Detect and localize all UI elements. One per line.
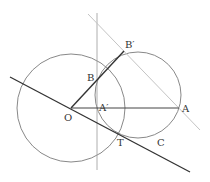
label-B: B (87, 72, 94, 83)
diagram-canvas: O A A′ B B′ T C (0, 0, 210, 182)
circle-C (95, 52, 181, 138)
label-A-prime: A′ (98, 102, 109, 113)
segment-OB-prime (71, 51, 124, 108)
label-T: T (117, 137, 124, 148)
label-B-prime: B′ (125, 39, 135, 50)
geometry-diagram: O A A′ B B′ T C (0, 0, 210, 182)
label-A: A (181, 103, 190, 114)
label-O: O (64, 112, 72, 123)
label-C: C (157, 137, 165, 148)
